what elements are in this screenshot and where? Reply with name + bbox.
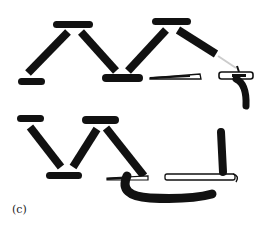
bottom-strut-3 xyxy=(106,128,144,176)
top-strut-4 xyxy=(178,30,216,54)
bottom-cap-bar-2 xyxy=(82,116,119,124)
top-cap-bar-2 xyxy=(152,18,191,25)
top-foot-bar-2 xyxy=(102,74,143,82)
top-strut-2 xyxy=(81,32,116,71)
top-handle-hook xyxy=(236,79,246,106)
bottom-foot-bar xyxy=(46,172,82,179)
diagram-canvas: (c) xyxy=(0,0,270,227)
top-strut-tip xyxy=(237,66,239,72)
diagram-illustration xyxy=(0,0,270,227)
top-foot-bar-1 xyxy=(18,78,45,85)
top-strut-4-fade xyxy=(218,56,236,68)
top-strut-1 xyxy=(28,32,68,73)
bottom-strut-2 xyxy=(73,129,97,167)
top-cap-bar-1 xyxy=(53,21,93,28)
bottom-cap-bar-1 xyxy=(17,115,44,122)
bottom-strut-1 xyxy=(30,127,61,167)
top-strut-3 xyxy=(128,30,166,71)
figure-label: (c) xyxy=(12,203,27,216)
bottom-vertical-bar xyxy=(221,132,223,172)
